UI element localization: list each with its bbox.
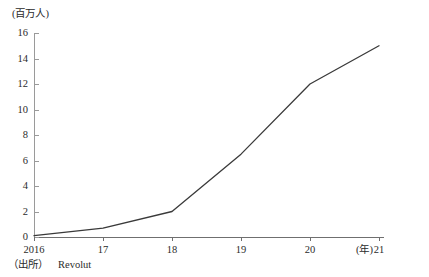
x-tick-label: 21	[374, 243, 385, 256]
x-tick-label: 18	[167, 243, 178, 256]
y-tick-label: 4	[23, 179, 28, 192]
y-tick-label: 0	[23, 230, 28, 243]
x-axis-unit-label: (年)	[356, 243, 373, 256]
x-tick-label: 17	[98, 243, 109, 256]
source-value: Revolut	[58, 259, 91, 270]
data-series-line	[34, 33, 384, 238]
y-tick-label: 6	[23, 154, 28, 167]
source-note: （出所）Revolut	[8, 258, 91, 271]
x-tick-label: 20	[305, 243, 316, 256]
y-axis-unit-label: (百万人)	[12, 8, 49, 20]
y-tick-label: 8	[23, 128, 28, 141]
source-label: （出所）	[8, 259, 48, 270]
y-tick-label: 16	[18, 26, 29, 39]
y-tick-label: 14	[18, 52, 29, 65]
line-chart-figure: (百万人) 1614121086420 20161718192021 (年) （…	[0, 0, 429, 277]
y-tick-label: 2	[23, 205, 28, 218]
x-tick-label: 19	[236, 243, 247, 256]
y-tick-label: 10	[18, 103, 29, 116]
x-tick-label: 2016	[24, 243, 45, 256]
y-tick-label: 12	[18, 77, 29, 90]
series-polyline	[34, 46, 379, 236]
